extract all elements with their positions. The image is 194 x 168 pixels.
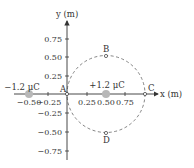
- x-tick-label: 0.25: [78, 98, 96, 107]
- x-tick-label: 0.75: [116, 98, 134, 107]
- x-axis-label: x (m): [160, 89, 182, 99]
- y-tick-label: 0.75: [44, 35, 62, 44]
- positive-charge: [102, 90, 110, 98]
- x-tick-label: −0.25: [37, 98, 62, 107]
- x-tick-label: 0.50: [97, 98, 115, 107]
- point-b-marker: [104, 54, 107, 57]
- point-d-label: D: [103, 135, 110, 145]
- y-tick-label: −0.75: [37, 147, 62, 156]
- point-a-label: A: [59, 84, 67, 94]
- negative-charge-label: −1.2 μC: [4, 82, 39, 92]
- positive-charge-label: +1.2 μC: [89, 80, 124, 90]
- y-tick-label: −0.50: [37, 128, 62, 137]
- point-c-marker: [143, 92, 146, 95]
- point-b-label: B: [103, 44, 109, 54]
- y-tick-label: 0.25: [44, 72, 62, 81]
- y-axis-label: y (m): [55, 9, 78, 19]
- y-tick-label: 0.50: [44, 53, 62, 62]
- electric-charges-diagram: −0.50 −0.25 0.25 0.50 0.75 0.75 0.50 0.2…: [0, 0, 194, 168]
- point-c-label: C: [148, 83, 155, 93]
- y-tick-label: −0.25: [37, 109, 62, 118]
